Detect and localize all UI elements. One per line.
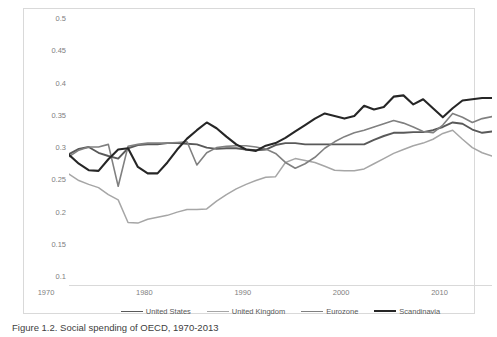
y-axis-tick-label: 0.5 <box>26 15 66 23</box>
legend-label: United States <box>146 307 191 316</box>
y-axis-tick-label: 0.3 <box>26 144 66 152</box>
y-axis-tick-label: 0.35 <box>26 112 66 120</box>
legend-label: United Kingdom <box>232 307 285 316</box>
series-line <box>69 95 492 173</box>
y-axis-tick-label: 0.4 <box>26 80 66 88</box>
y-axis-tick-label: 0.15 <box>26 241 66 249</box>
legend-swatch-icon <box>207 311 229 312</box>
legend-item[interactable]: Scandinavia <box>374 307 440 316</box>
figure-caption: Figure 1.2. Social spending of OECD, 197… <box>12 322 482 333</box>
x-axis-tick-label: 2000 <box>321 288 361 297</box>
series-line <box>69 113 492 186</box>
legend-swatch-icon <box>374 310 396 312</box>
plot-area <box>69 27 492 285</box>
x-axis-tick-label: 2010 <box>419 288 459 297</box>
legend-swatch-icon <box>301 311 323 312</box>
y-axis-tick-label: 0.25 <box>26 176 66 184</box>
legend-swatch-icon <box>121 311 143 312</box>
y-axis-tick-label: 0.1 <box>26 273 66 281</box>
chart-legend: United StatesUnited KingdomEurozoneScand… <box>69 305 492 317</box>
y-axis-tick-label: 0.45 <box>26 47 66 55</box>
legend-item[interactable]: United States <box>121 307 191 316</box>
x-axis-baseline <box>69 285 492 286</box>
legend-item[interactable]: Eurozone <box>301 307 358 316</box>
y-axis-tick-label: 0.2 <box>26 209 66 217</box>
x-axis-labels: 19701980199020002010 <box>24 288 497 302</box>
legend-label: Eurozone <box>326 307 358 316</box>
x-axis-tick-label: 1970 <box>26 288 66 297</box>
legend-item[interactable]: United Kingdom <box>207 307 285 316</box>
x-axis-tick-label: 1990 <box>223 288 263 297</box>
series-lines <box>69 27 492 285</box>
chart-frame: 0.50.450.40.350.30.250.20.150.1 19701980… <box>23 8 475 314</box>
legend-label: Scandinavia <box>399 307 440 316</box>
x-axis-tick-label: 1980 <box>124 288 164 297</box>
